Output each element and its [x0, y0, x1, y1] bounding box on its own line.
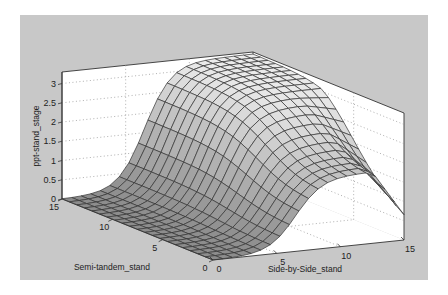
- z-tick-label: 2: [51, 117, 56, 127]
- semi-tandem-tick-label: 10: [99, 222, 109, 232]
- side-by-side-tick-label: 10: [341, 251, 351, 261]
- semi-tandem-axis-label: Semi-tandem_stand: [74, 262, 150, 272]
- z-tick-label: 3: [51, 79, 56, 89]
- semi-tandem-tick-label: 15: [49, 202, 59, 212]
- z-tick-label: 1: [51, 156, 56, 166]
- side-by-side-tick-label: 0: [216, 264, 221, 274]
- semi-tandem-tick-label: 0: [202, 263, 207, 273]
- z-tick-label: 2.5: [43, 98, 56, 108]
- surface-plot-figure: 00.511.522.53 051015 051015 ppt-stand_st…: [0, 0, 448, 295]
- z-tick-label: 1.5: [43, 136, 56, 146]
- semi-tandem-tick-label: 5: [152, 243, 157, 253]
- z-axis-label: ppt-stand_stage: [31, 105, 41, 166]
- side-by-side-axis-label: Side-by-Side_stand: [268, 264, 342, 274]
- z-tick-label: 0.5: [43, 175, 56, 185]
- side-by-side-tick-label: 15: [405, 244, 415, 254]
